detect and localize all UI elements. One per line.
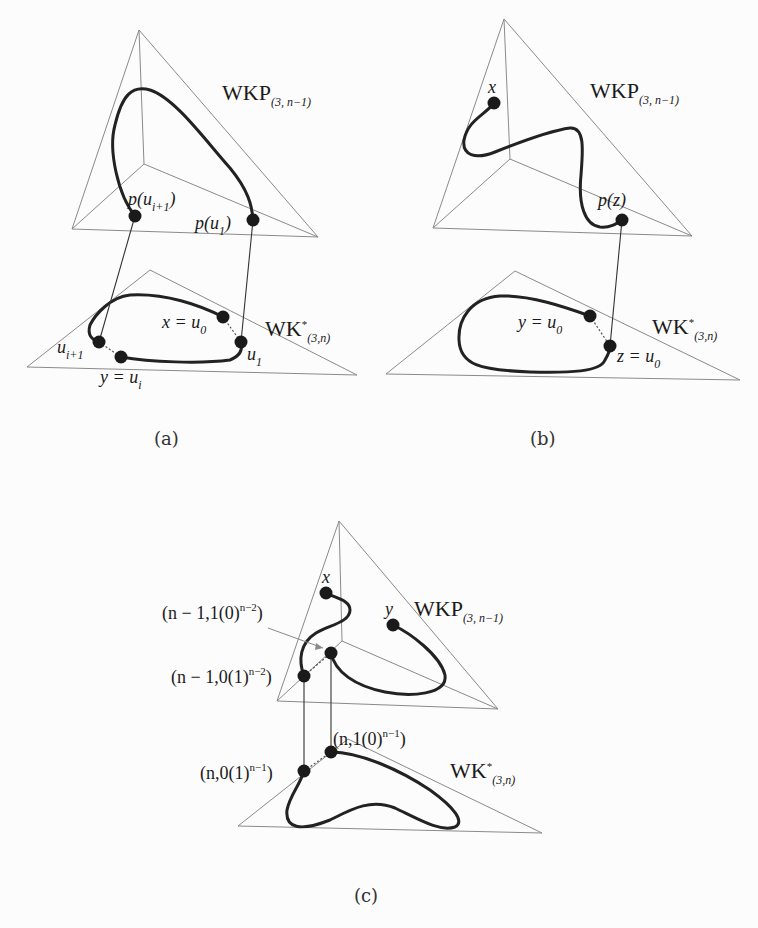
caption-c: (c): [354, 885, 378, 906]
panel-b-lower-label: WK*(3,n): [652, 316, 717, 342]
label-c-y: y: [385, 600, 393, 618]
label-p-z: p(z): [598, 191, 626, 209]
label-x-eq-u0: x = u0: [162, 313, 206, 336]
panel-a-lower-label: WK*(3,n): [265, 318, 330, 344]
panel-c-lower-label: WK*(3,n): [450, 760, 515, 786]
panel-c-lower-cycle: [287, 752, 459, 828]
panel-c-path-y: [331, 625, 445, 694]
label-p-u1: p(u1): [195, 214, 231, 237]
panel-b-upper-tetrahedron: [433, 19, 692, 236]
label-y-eq-u0: y = u0: [518, 313, 562, 336]
panel-a-projection-2: [241, 220, 253, 342]
label-p-u-i-plus-1: p(ui+1): [128, 190, 175, 213]
panel-c-annotation-arrow: [268, 628, 323, 648]
label-c-x: x: [322, 568, 330, 586]
label-n-minus-1-0-1: (n − 1,0(1)n−2): [171, 666, 272, 686]
caption-b: (b): [530, 428, 556, 449]
panel-a-projection-1: [99, 216, 135, 342]
label-u-i-plus-1: ui+1: [57, 338, 83, 361]
label-y-eq-ui: y = ui: [100, 368, 141, 391]
panel-b-projection: [610, 220, 622, 346]
panel-c-path-x: [301, 593, 350, 676]
diagram-graphics: [0, 0, 758, 928]
label-x: x: [488, 78, 496, 96]
label-u1: u1: [247, 345, 262, 368]
panel-a-upper-tetrahedron: [72, 30, 318, 237]
label-z-eq-u0: z = u0: [617, 347, 660, 370]
panel-b-upper-label: WKP(3, n−1): [590, 80, 679, 106]
label-n-minus-1-1-0: (n − 1,1(0)n−2): [162, 602, 263, 622]
caption-a: (a): [154, 428, 179, 449]
panel-a-upper-label: WKP(3, n−1): [222, 82, 311, 108]
label-n-1-0: (n,1(0)n−1): [333, 728, 406, 748]
panel-c-upper-label: WKP(3, n−1): [414, 598, 503, 624]
label-n-0-1: (n,0(1)n−1): [200, 762, 273, 782]
figure-canvas: WKP(3, n−1) WK*(3,n) p(ui+1) p(u1) x = u…: [0, 0, 758, 928]
